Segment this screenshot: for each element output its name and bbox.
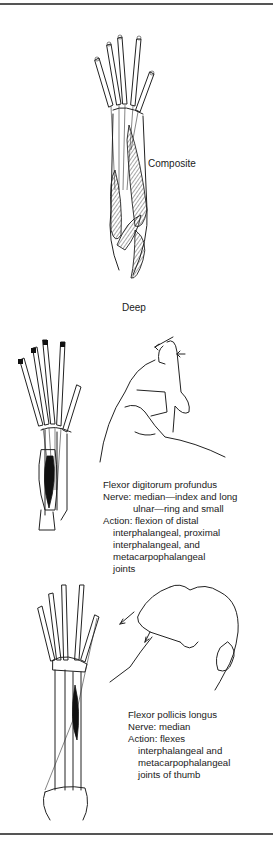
fpl-action-2: interphalangeal and: [128, 745, 230, 757]
composite-label: Composite: [148, 158, 196, 170]
fpl-caption: Flexor pollicis longus Nerve: median Act…: [128, 709, 230, 781]
forearm-hand-muscle-illustration: [85, 30, 165, 280]
fdp-action-3: interphalangeal, and: [103, 539, 237, 551]
bottom-rule: [0, 833, 273, 835]
fdp-action-4: metacarpophalangeal: [103, 551, 237, 563]
forearm-skeleton-fpl-illustration: [35, 580, 110, 825]
fdp-caption: Flexor digitorum profundus Nerve: median…: [103, 479, 237, 575]
fpl-action-4: joints of thumb: [128, 769, 230, 781]
fpl-action-1: Action: flexes: [128, 733, 230, 745]
hand-finger-flexion-test-illustration: [95, 332, 235, 467]
deep-label: Deep: [122, 302, 146, 314]
thumb-flexion-test-illustration: [110, 582, 245, 692]
fdp-action-1: Action: flexion of distal: [103, 515, 237, 527]
forearm-skeleton-fdp-illustration: [15, 340, 90, 530]
fpl-action-3: metacarpophalangeal: [128, 757, 230, 769]
fpl-title: Flexor pollicis longus: [128, 709, 230, 721]
fdp-nerve-2: ulnar—ring and small: [103, 503, 237, 515]
top-rule: [0, 3, 273, 5]
fdp-action-5: joints: [103, 563, 237, 575]
fdp-title: Flexor digitorum profundus: [103, 479, 237, 491]
fdp-action-2: interphalangeal, proximal: [103, 527, 237, 539]
fdp-nerve-1: Nerve: median—index and long: [103, 491, 237, 503]
fpl-nerve-1: Nerve: median: [128, 721, 230, 733]
